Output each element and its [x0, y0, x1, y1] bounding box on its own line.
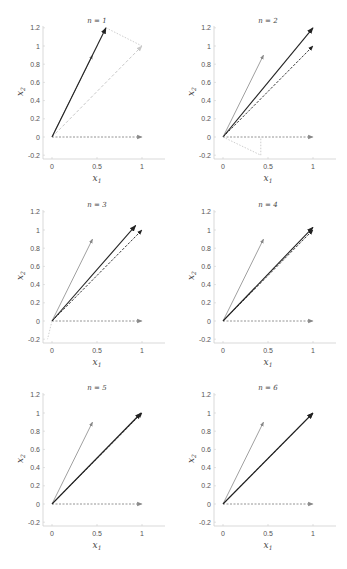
- vector-residual: [106, 28, 142, 46]
- y-tick-label: 0.8: [201, 245, 211, 252]
- y-tick-label: -0.2: [28, 519, 40, 526]
- y-tick-label: 0.6: [30, 263, 40, 270]
- x-tick-label: 1: [140, 347, 144, 354]
- x-tick-label: 1: [140, 163, 144, 170]
- y-tick-label: 0.6: [201, 446, 211, 453]
- y-tick-label: 1.2: [30, 208, 40, 215]
- vector-a2: [223, 239, 264, 321]
- y-tick-label: -0.2: [199, 336, 211, 343]
- y-axis-label: x2: [15, 271, 26, 280]
- panel-5: -0.200.20.40.60.811.200.51n = 5x1x2: [15, 384, 165, 551]
- x-axis-label: x1: [93, 540, 102, 551]
- figure-canvas: -0.200.20.40.60.811.200.51n = 1x1x2-0.20…: [0, 0, 347, 569]
- x-axis-label: x1: [264, 540, 273, 551]
- y-tick-label: 1.2: [201, 391, 211, 398]
- x-tick-label: 1: [311, 530, 315, 537]
- panel-1: -0.200.20.40.60.811.200.51n = 1x1x2: [15, 17, 165, 184]
- y-tick-label: 1.2: [201, 24, 211, 31]
- y-tick-label: 1.2: [30, 24, 40, 31]
- y-tick-label: 1: [207, 227, 211, 234]
- y-tick-label: 0.2: [201, 115, 211, 122]
- x-tick-label: 0.5: [92, 163, 102, 170]
- y-tick-label: -0.2: [28, 152, 40, 159]
- y-tick-label: 0.2: [30, 299, 40, 306]
- x-tick-label: 0: [50, 163, 54, 170]
- y-axis-label: x2: [186, 454, 197, 463]
- y-tick-label: 0.6: [30, 446, 40, 453]
- y-axis-label: x2: [15, 87, 26, 96]
- vector-approx: [223, 28, 313, 137]
- y-tick-label: 1.2: [201, 208, 211, 215]
- panel-title: n = 2: [258, 17, 278, 25]
- panel-title: n = 5: [87, 384, 107, 392]
- y-axis-label: x2: [15, 454, 26, 463]
- vector-approx: [52, 28, 106, 137]
- x-tick-label: 1: [311, 163, 315, 170]
- vector-residual: [223, 137, 261, 155]
- y-tick-label: 0.8: [201, 428, 211, 435]
- panel-2: -0.200.20.40.60.811.200.51n = 2x1x2: [186, 17, 336, 184]
- vector-target: [223, 46, 313, 137]
- x-tick-label: 0.5: [263, 530, 273, 537]
- vector-residual: [48, 321, 53, 339]
- y-tick-label: 0.2: [30, 115, 40, 122]
- y-tick-label: 0: [207, 501, 211, 508]
- x-axis-label: x1: [264, 357, 273, 368]
- y-tick-label: 0.2: [30, 482, 40, 489]
- y-tick-label: 0.4: [201, 464, 211, 471]
- vector-approx: [52, 413, 141, 504]
- y-tick-label: 0.8: [30, 428, 40, 435]
- x-tick-label: 0: [221, 530, 225, 537]
- panel-4: -0.200.20.40.60.811.200.51n = 4x1x2: [186, 201, 336, 368]
- x-tick-label: 0.5: [263, 347, 273, 354]
- x-tick-label: 1: [140, 530, 144, 537]
- y-tick-label: 0: [36, 501, 40, 508]
- panel-title: n = 1: [87, 17, 106, 25]
- y-tick-label: 0.4: [201, 281, 211, 288]
- y-tick-label: 1: [207, 43, 211, 50]
- vector-approx: [223, 227, 313, 321]
- x-axis-label: x1: [93, 173, 102, 184]
- y-tick-label: 1: [36, 410, 40, 417]
- y-tick-label: -0.2: [28, 336, 40, 343]
- y-tick-label: 0.6: [30, 79, 40, 86]
- y-axis-label: x2: [186, 271, 197, 280]
- y-tick-label: 0.4: [30, 281, 40, 288]
- vector-a2: [52, 239, 93, 321]
- y-tick-label: -0.2: [199, 152, 211, 159]
- y-tick-label: 0.4: [201, 97, 211, 104]
- x-axis-label: x1: [93, 357, 102, 368]
- y-tick-label: 0: [207, 134, 211, 141]
- y-tick-label: 0: [36, 318, 40, 325]
- y-tick-label: 0.8: [30, 61, 40, 68]
- x-tick-label: 1: [311, 347, 315, 354]
- vector-approx: [52, 225, 136, 321]
- y-tick-label: 0.2: [201, 482, 211, 489]
- y-tick-label: 0: [36, 134, 40, 141]
- y-tick-label: 0.4: [30, 97, 40, 104]
- y-tick-label: 0.4: [30, 464, 40, 471]
- vector-approx: [223, 413, 313, 504]
- panel-3: -0.200.20.40.60.811.200.51n = 3x1x2: [15, 201, 165, 368]
- x-tick-label: 0.5: [263, 163, 273, 170]
- y-tick-label: -0.2: [199, 519, 211, 526]
- vector-target: [52, 230, 142, 321]
- x-tick-label: 0.5: [92, 347, 102, 354]
- vector-a2: [223, 422, 264, 504]
- y-tick-label: 0.8: [30, 245, 40, 252]
- x-tick-label: 0: [50, 347, 54, 354]
- y-tick-label: 0.6: [201, 263, 211, 270]
- panel-6: -0.200.20.40.60.811.200.51n = 6x1x2: [186, 384, 336, 551]
- y-tick-label: 1: [36, 43, 40, 50]
- vector-a2: [52, 422, 93, 504]
- y-tick-label: 1: [36, 227, 40, 234]
- x-tick-label: 0.5: [92, 530, 102, 537]
- y-tick-label: 0.8: [201, 61, 211, 68]
- y-tick-label: 1: [207, 410, 211, 417]
- panel-title: n = 3: [87, 201, 107, 209]
- x-tick-label: 0: [221, 163, 225, 170]
- x-axis-label: x1: [264, 173, 273, 184]
- y-tick-label: 0: [207, 318, 211, 325]
- x-tick-label: 0: [50, 530, 54, 537]
- y-axis-label: x2: [186, 87, 197, 96]
